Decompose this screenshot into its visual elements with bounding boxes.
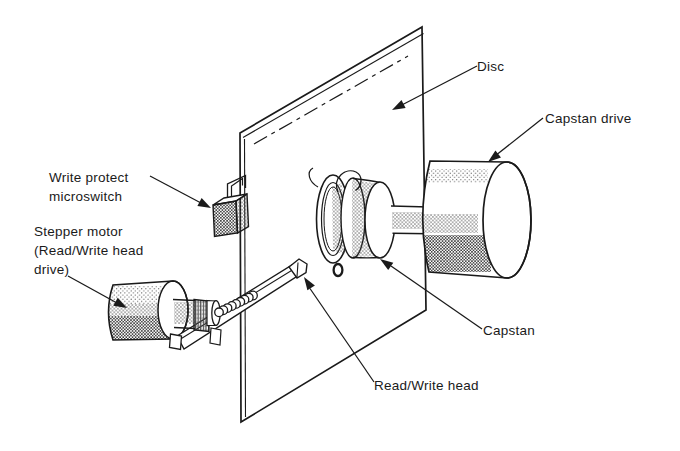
label-stepper-motor: Stepper motor (Read/Write head drive) — [34, 222, 144, 279]
label-stepper-line1: Stepper motor — [34, 222, 144, 241]
label-write-protect-line1: Write protect — [49, 168, 129, 187]
label-write-protect-line2: microswitch — [49, 187, 129, 206]
label-capstan: Capstan — [483, 321, 535, 340]
label-capstan-text: Capstan — [483, 321, 535, 340]
label-capstan-drive-text: Capstan drive — [545, 109, 632, 128]
label-read-write-head: Read/Write head — [374, 376, 479, 395]
worm-support-bracket — [210, 328, 221, 345]
label-stepper-line2: (Read/Write head — [34, 241, 144, 260]
label-disc-text: Disc — [477, 57, 504, 76]
label-disc: Disc — [477, 57, 504, 76]
capstan-drive-cylinder — [414, 161, 531, 278]
switch-front-face — [213, 201, 238, 237]
label-capstan-drive: Capstan drive — [545, 109, 632, 128]
arm-end-foot — [170, 334, 182, 350]
motor-hub-shading — [174, 302, 195, 324]
label-stepper-line3: drive) — [34, 260, 144, 279]
capstan-front-face — [365, 182, 395, 258]
figure-disc-drive-mechanism: Disc Capstan drive Write protect microsw… — [0, 0, 680, 451]
label-write-protect-microswitch: Write protect microswitch — [49, 168, 129, 206]
label-read-write-head-text: Read/Write head — [374, 376, 479, 395]
